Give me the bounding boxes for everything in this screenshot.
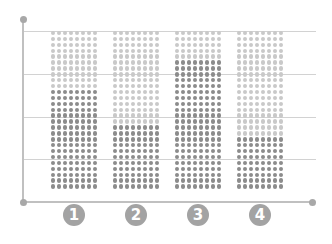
- empty-dot: [149, 96, 153, 100]
- filled-dot: [255, 173, 259, 177]
- filled-dot: [87, 184, 91, 188]
- filled-dot: [279, 143, 283, 147]
- filled-dot: [75, 161, 79, 165]
- filled-dot: [199, 84, 203, 88]
- filled-dot: [131, 178, 135, 182]
- empty-dot: [267, 49, 271, 53]
- empty-dot: [69, 84, 73, 88]
- filled-dot: [51, 102, 55, 106]
- empty-dot: [75, 72, 79, 76]
- filled-dot: [81, 125, 85, 129]
- empty-dot: [279, 108, 283, 112]
- filled-dot: [63, 90, 67, 94]
- empty-dot: [51, 78, 55, 82]
- filled-dot: [137, 143, 141, 147]
- empty-dot: [51, 49, 55, 53]
- filled-dot: [211, 60, 215, 64]
- filled-dot: [205, 137, 209, 141]
- filled-dot: [69, 155, 73, 159]
- empty-dot: [155, 102, 159, 106]
- empty-dot: [255, 78, 259, 82]
- empty-dot: [137, 43, 141, 47]
- filled-dot: [131, 167, 135, 171]
- filled-dot: [93, 131, 97, 135]
- filled-dot: [255, 184, 259, 188]
- filled-dot: [211, 90, 215, 94]
- empty-dot: [261, 54, 265, 58]
- filled-dot: [143, 125, 147, 129]
- filled-dot: [143, 161, 147, 165]
- filled-dot: [119, 167, 123, 171]
- filled-dot: [51, 167, 55, 171]
- filled-dot: [113, 125, 117, 129]
- filled-dot: [199, 125, 203, 129]
- filled-dot: [51, 184, 55, 188]
- empty-dot: [75, 43, 79, 47]
- filled-dot: [193, 84, 197, 88]
- filled-dot: [81, 96, 85, 100]
- filled-dot: [175, 108, 179, 112]
- filled-dot: [193, 131, 197, 135]
- empty-dot: [279, 60, 283, 64]
- empty-dot: [249, 31, 253, 35]
- empty-dot: [51, 37, 55, 41]
- filled-dot: [261, 161, 265, 165]
- filled-dot: [125, 125, 129, 129]
- filled-dot: [87, 173, 91, 177]
- empty-dot: [131, 78, 135, 82]
- empty-dot: [175, 31, 179, 35]
- filled-dot: [75, 131, 79, 135]
- filled-dot: [119, 155, 123, 159]
- filled-dot: [93, 113, 97, 117]
- filled-dot: [187, 78, 191, 82]
- filled-dot: [113, 178, 117, 182]
- empty-dot: [243, 102, 247, 106]
- filled-dot: [143, 167, 147, 171]
- filled-dot: [243, 167, 247, 171]
- filled-dot: [119, 178, 123, 182]
- filled-dot: [279, 173, 283, 177]
- filled-dot: [243, 137, 247, 141]
- empty-dot: [249, 119, 253, 123]
- filled-dot: [155, 143, 159, 147]
- x-axis: [22, 201, 313, 203]
- filled-dot: [87, 167, 91, 171]
- filled-dot: [279, 149, 283, 153]
- filled-dot: [149, 125, 153, 129]
- filled-dot: [193, 60, 197, 64]
- filled-dot: [211, 108, 215, 112]
- filled-dot: [143, 143, 147, 147]
- category-badge-3: 3: [187, 204, 209, 226]
- filled-dot: [175, 178, 179, 182]
- filled-dot: [87, 108, 91, 112]
- empty-dot: [243, 131, 247, 135]
- empty-dot: [113, 84, 117, 88]
- filled-dot: [211, 78, 215, 82]
- filled-dot: [211, 72, 215, 76]
- empty-dot: [143, 119, 147, 123]
- empty-dot: [181, 54, 185, 58]
- filled-dot: [255, 178, 259, 182]
- empty-dot: [267, 84, 271, 88]
- filled-dot: [69, 161, 73, 165]
- filled-dot: [267, 161, 271, 165]
- empty-dot: [279, 119, 283, 123]
- empty-dot: [137, 113, 141, 117]
- filled-dot: [237, 167, 241, 171]
- filled-dot: [187, 84, 191, 88]
- filled-dot: [199, 178, 203, 182]
- filled-dot: [205, 108, 209, 112]
- empty-dot: [63, 31, 67, 35]
- filled-dot: [63, 108, 67, 112]
- empty-dot: [131, 60, 135, 64]
- filled-dot: [273, 173, 277, 177]
- filled-dot: [205, 155, 209, 159]
- empty-dot: [267, 131, 271, 135]
- empty-dot: [237, 119, 241, 123]
- empty-dot: [69, 49, 73, 53]
- empty-dot: [87, 84, 91, 88]
- filled-dot: [205, 143, 209, 147]
- empty-dot: [137, 66, 141, 70]
- empty-dot: [237, 131, 241, 135]
- filled-dot: [93, 102, 97, 106]
